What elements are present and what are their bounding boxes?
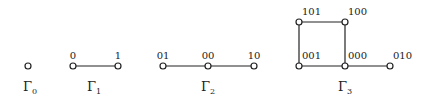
vertex [387,63,393,69]
vertex [160,63,166,69]
vertex [25,63,31,69]
vertex-label: 100 [348,6,367,17]
vertex [115,63,121,69]
vertex [296,19,302,25]
graph-label: Γ0 [23,79,37,96]
vertex [70,63,76,69]
vertex-label: 010 [393,50,412,61]
vertex-label: 001 [302,50,321,61]
vertex [205,63,211,69]
graph-Γ3: 101100001000010Γ3 [296,6,412,96]
vertex [342,63,348,69]
graph-diagram: Γ001Γ1010010Γ2101100001000010Γ3 [0,0,432,98]
vertex [296,63,302,69]
vertex-label: 01 [157,50,170,61]
vertex-label: 101 [302,6,321,17]
graph-Γ0: Γ0 [23,63,37,96]
graph-label: Γ2 [201,79,215,96]
vertex-label: 10 [248,50,261,61]
vertex-label: 00 [202,50,215,61]
vertex [251,63,257,69]
graph-Γ1: 01Γ1 [70,50,121,96]
vertex [342,19,348,25]
vertex-label: 1 [115,50,121,61]
graph-label: Γ3 [338,79,352,96]
vertex-label: 000 [348,50,367,61]
graph-Γ2: 010010Γ2 [157,50,261,96]
graph-label: Γ1 [87,79,101,96]
vertex-label: 0 [70,50,76,61]
